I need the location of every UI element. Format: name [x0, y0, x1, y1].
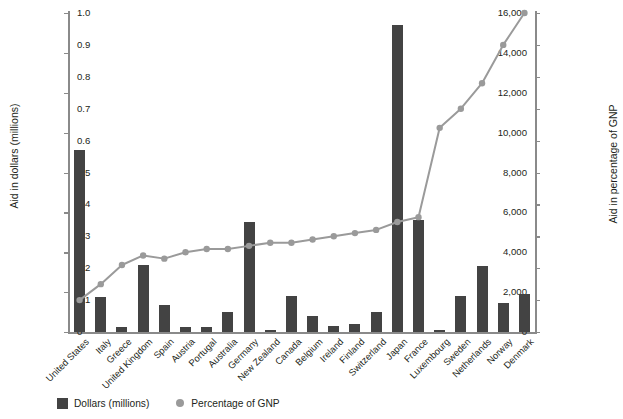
tick-mark [535, 109, 540, 110]
line-marker: Japan: 0.345 [394, 219, 400, 225]
line-marker: Ireland: 0.3 [331, 233, 337, 239]
tick-mark [535, 77, 540, 78]
square-swatch-icon [57, 398, 68, 409]
line-path [80, 13, 525, 300]
line-marker: Belgium: 0.29 [309, 236, 315, 242]
line-marker: United Kingdom: 0.24 [140, 252, 146, 258]
line-marker: Netherlands: 0.78 [479, 80, 485, 86]
chart-legend: Dollars (millions) Percentage of GNP [57, 396, 280, 410]
tick-mark [535, 236, 540, 237]
line-marker: Finland: 0.31 [352, 230, 358, 236]
line-marker: Spain: 0.23 [161, 255, 167, 261]
y-axis-left-title: Aid in dollars (millions) [8, 76, 20, 236]
line-marker: United States: 0.1 [76, 297, 82, 303]
line-marker: Luxembourg: 0.64 [436, 125, 442, 131]
line-marker: Norway: 0.9 [500, 42, 506, 48]
legend-item-dollars: Dollars (millions) [57, 398, 149, 409]
tick-mark [535, 173, 540, 174]
chart-container: Aid in dollars (millions) Aid in percent… [0, 0, 623, 419]
line-marker: Germany: 0.27 [246, 243, 252, 249]
tick-mark [535, 45, 540, 46]
circle-dot-icon [176, 399, 184, 407]
x-axis-category-labels: United StatesItalyGreeceUnited KingdomSp… [69, 334, 535, 394]
line-marker: Canada: 0.28 [288, 239, 294, 245]
line-marker: New Zealand: 0.28 [267, 239, 273, 245]
tick-mark [535, 141, 540, 142]
line-marker: Denmark: 1 [521, 10, 527, 16]
y-axis-right-title: Aid in percentage of GNP [607, 84, 619, 244]
line-marker: Austria: 0.25 [182, 249, 188, 255]
line-marker: Italy: 0.15 [98, 281, 104, 287]
tick-mark [535, 13, 540, 14]
tick-mark [535, 300, 540, 301]
tick-mark [535, 332, 540, 333]
legend-item-percentage-gnp: Percentage of GNP [175, 398, 279, 409]
line-marker: Portugal: 0.26 [203, 246, 209, 252]
category-label-text: United States [44, 336, 92, 384]
plot-area: 02,0004,0006,0008,00010,00012,00014,0001… [69, 13, 535, 332]
line-marker: France: 0.36 [415, 214, 421, 220]
line-marker: Australia: 0.26 [225, 246, 231, 252]
tick-mark [535, 204, 540, 205]
line-marker: Switzerland: 0.32 [373, 227, 379, 233]
line-marker: Greece: 0.21 [119, 262, 125, 268]
line-series-percentage-gnp: United States: 0.1Italy: 0.15Greece: 0.2… [69, 13, 535, 332]
legend-label-percentage-gnp: Percentage of GNP [191, 398, 279, 409]
legend-label-dollars: Dollars (millions) [74, 398, 149, 409]
line-marker: Sweden: 0.7 [458, 106, 464, 112]
tick-mark [535, 268, 540, 269]
